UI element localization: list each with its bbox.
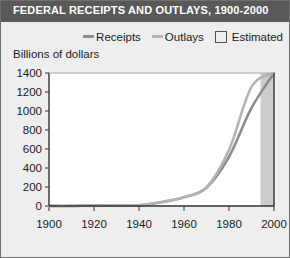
y-tick-label: 1400 bbox=[16, 67, 42, 79]
x-tick-label: 1980 bbox=[216, 218, 242, 230]
chart-svg: 0200400600800100012001400 19001920194019… bbox=[1, 63, 290, 258]
legend-item-outlays[interactable]: Outlays bbox=[152, 31, 204, 43]
estimated-band bbox=[261, 73, 275, 206]
y-axis-tick-labels: 0200400600800100012001400 bbox=[16, 67, 42, 212]
x-tick-label: 1940 bbox=[126, 218, 152, 230]
x-tick-label: 2000 bbox=[261, 218, 287, 230]
page-title: FEDERAL RECEIPTS AND OUTLAYS, 1900-2000 bbox=[13, 4, 268, 16]
y-tick-label: 0 bbox=[36, 200, 42, 212]
legend-swatch-outlays-icon bbox=[152, 35, 163, 38]
chart-title-bar: FEDERAL RECEIPTS AND OUTLAYS, 1900-2000 bbox=[1, 1, 290, 22]
legend-swatch-estimated-icon bbox=[215, 31, 227, 43]
legend-label-estimated: Estimated bbox=[232, 31, 283, 43]
legend-item-estimated[interactable]: Estimated bbox=[215, 31, 283, 43]
y-axis-unit-label: Billions of dollars bbox=[13, 48, 99, 60]
x-tick-label: 1960 bbox=[171, 218, 197, 230]
chart-legend: Receipts Outlays Estimated bbox=[1, 28, 290, 45]
legend-item-receipts[interactable]: Receipts bbox=[83, 31, 141, 43]
legend-swatch-receipts-icon bbox=[83, 35, 94, 38]
y-tick-label: 400 bbox=[23, 162, 42, 174]
y-tick-label: 200 bbox=[23, 181, 42, 193]
legend-label-receipts: Receipts bbox=[96, 31, 141, 43]
x-axis-tick-labels: 190019201940196019802000 bbox=[36, 218, 287, 230]
y-tick-label: 800 bbox=[23, 124, 42, 136]
legend-label-outlays: Outlays bbox=[165, 31, 204, 43]
plot-area: 0200400600800100012001400 19001920194019… bbox=[1, 63, 290, 258]
y-tick-label: 600 bbox=[23, 143, 42, 155]
plot-background bbox=[49, 73, 274, 206]
x-tick-label: 1900 bbox=[36, 218, 62, 230]
y-tick-label: 1200 bbox=[16, 86, 42, 98]
x-tick-label: 1920 bbox=[81, 218, 107, 230]
y-tick-label: 1000 bbox=[16, 105, 42, 117]
chart-figure: FEDERAL RECEIPTS AND OUTLAYS, 1900-2000 … bbox=[0, 0, 290, 258]
